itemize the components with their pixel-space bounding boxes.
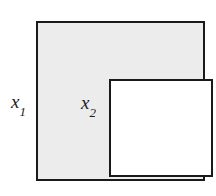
outer-square-shape bbox=[36, 21, 205, 181]
figure-canvas: x1 x2 bbox=[0, 0, 216, 196]
label-x1: x1 bbox=[11, 92, 26, 115]
label-x1-subscript: 1 bbox=[19, 104, 26, 119]
inner-square-shape bbox=[109, 79, 213, 177]
label-x2: x2 bbox=[81, 93, 96, 116]
label-x2-subscript: 2 bbox=[89, 105, 96, 120]
